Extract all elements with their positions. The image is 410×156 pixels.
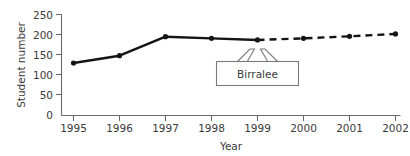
x-axis-title: Year [219, 140, 243, 152]
callout-arrow-right [261, 49, 279, 62]
y-axis-title: Student number [15, 21, 27, 107]
callout-label: Birralee [237, 68, 278, 80]
x-tick-label-1995: 1995 [60, 122, 87, 134]
data-point [347, 34, 352, 39]
y-tick-label-200: 200 [33, 29, 53, 41]
y-tick-label-50: 50 [40, 89, 53, 101]
series-group [71, 31, 398, 65]
x-tick-label-1998: 1998 [198, 122, 225, 134]
data-point [163, 34, 168, 39]
chart-container: Student number 250 200 150 100 50 0 1995… [0, 0, 410, 156]
series-line-projected [258, 34, 396, 40]
y-tick-label-250: 250 [33, 9, 53, 21]
y-tick-label-150: 150 [33, 49, 53, 61]
x-tick-label-1996: 1996 [106, 122, 133, 134]
data-point [117, 53, 122, 58]
x-tick-label-1997: 1997 [152, 122, 179, 134]
student-number-line-chart: Student number 250 200 150 100 50 0 1995… [0, 0, 410, 156]
birralee-callout: Birralee [217, 49, 299, 86]
data-point [71, 60, 76, 65]
x-tick-label-2000: 2000 [290, 122, 317, 134]
callout-arrow-left [237, 49, 255, 62]
data-point [255, 37, 260, 42]
data-point [209, 36, 214, 41]
y-tick-label-100: 100 [33, 69, 53, 81]
data-point [301, 36, 306, 41]
x-tick-label-2001: 2001 [336, 122, 363, 134]
x-tick-label-2002: 2002 [382, 122, 409, 134]
data-point [393, 31, 398, 36]
x-tick-label-1999: 1999 [244, 122, 271, 134]
y-tick-label-0: 0 [46, 109, 53, 121]
series-markers [71, 31, 398, 65]
series-line-actual [74, 37, 258, 63]
